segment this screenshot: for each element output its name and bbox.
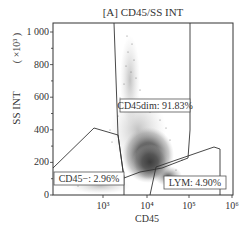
svg-text:10⁶: 10⁶ <box>225 200 239 211</box>
svg-text:10⁴: 10⁴ <box>140 200 154 211</box>
svg-text:LYM: 4.90%: LYM: 4.90% <box>169 177 221 188</box>
flow-cytometry-plot: [A] CD45/SS INT SS INT ( ×10³ ) <box>0 0 248 225</box>
y-axis-unit: ( ×10³ ) <box>11 33 23 63</box>
svg-text:400: 400 <box>34 124 49 135</box>
svg-text:1 000: 1 000 <box>27 26 50 37</box>
gate-label-lym: LYM: 4.90% <box>164 176 226 189</box>
chart-title: [A] CD45/SS INT <box>103 6 184 18</box>
svg-text:200: 200 <box>34 156 49 167</box>
x-axis-tick-labels: 10³ 10⁴ 10⁵ 10⁶ <box>97 200 240 211</box>
svg-text:0: 0 <box>44 189 49 200</box>
y-axis-tick-labels: 1 000 800 600 400 200 0 <box>27 26 50 200</box>
scatter-points <box>70 35 183 194</box>
svg-text:800: 800 <box>34 59 49 70</box>
svg-text:CD45−: 2.96%: CD45−: 2.96% <box>59 173 120 184</box>
svg-text:600: 600 <box>34 91 49 102</box>
svg-text:10⁵: 10⁵ <box>182 200 196 211</box>
svg-text:10³: 10³ <box>97 200 110 211</box>
x-axis-label: CD45 <box>135 213 159 224</box>
gate-label-cd45neg: CD45−: 2.96% <box>54 172 124 185</box>
gate-label-cd45dim: CD45dim: 91.83% <box>117 99 193 112</box>
svg-text:CD45dim: 91.83%: CD45dim: 91.83% <box>117 100 193 111</box>
y-axis-label: SS INT <box>10 91 22 125</box>
